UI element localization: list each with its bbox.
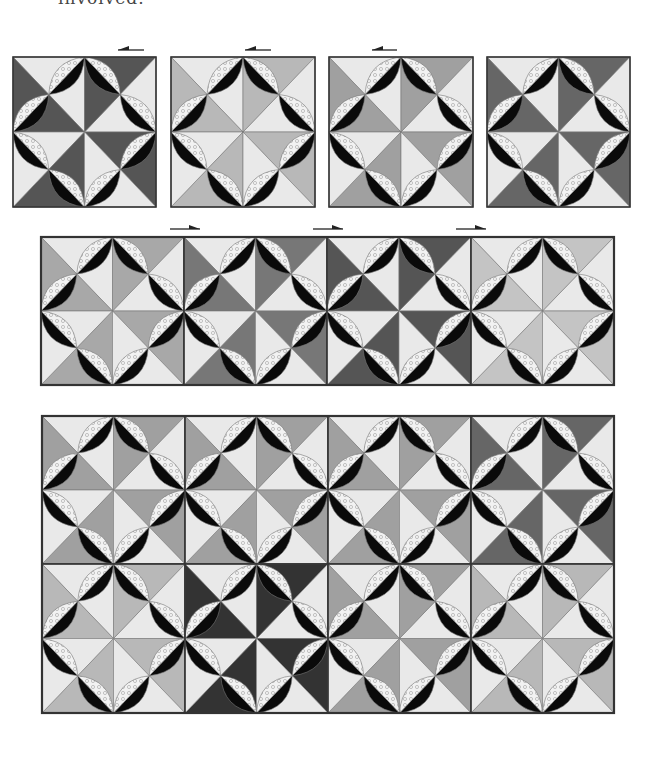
arrow-right-2-icon: [313, 225, 343, 229]
top-row-separate-blocks-block-3: [329, 57, 473, 207]
arrow-left-2-icon: [245, 46, 271, 50]
bottom-panel-row-2-block-4: [471, 564, 614, 713]
bottom-panel-row-1-block-4: [471, 416, 614, 564]
top-row-separate-blocks-block-4: [487, 57, 630, 207]
bottom-panel-row-2-block-1: [42, 564, 185, 713]
bottom-panel-row-1-block-3: [328, 416, 471, 564]
middle-row-joined-blocks-block-2: [184, 237, 327, 385]
arrow-left-1-icon: [118, 46, 144, 50]
bottom-panel-row-2-block-3: [328, 564, 471, 713]
arrow-right-1-icon: [170, 225, 200, 229]
arrow-right-3-icon: [456, 225, 486, 229]
quilt-diagram: [0, 0, 651, 759]
arrow-left-3-icon: [372, 46, 397, 50]
middle-row-joined-blocks-block-1: [41, 237, 184, 385]
top-row-separate-blocks-block-2: [171, 57, 315, 207]
top-row-separate-blocks-block-1: [13, 57, 156, 207]
bottom-panel-row-1-block-2: [185, 416, 328, 564]
middle-row-joined-blocks-block-3: [327, 237, 471, 385]
middle-row-joined-blocks-block-4: [471, 237, 614, 385]
bottom-panel-row-2-block-2: [185, 564, 328, 713]
bottom-panel-row-1-block-1: [42, 416, 185, 564]
